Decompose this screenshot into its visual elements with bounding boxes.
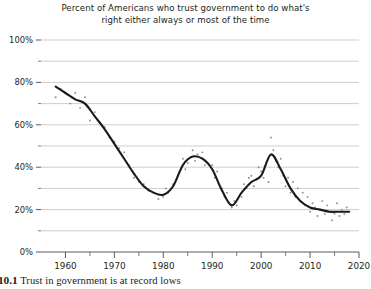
scatter-point [297,187,299,189]
scatter-point [84,96,86,98]
x-axis-tick-label: 1970 [103,261,126,271]
scatter-point [79,107,81,109]
chart-plot-area: 0%20%40%60%80%100% 196019701980199020002… [0,26,371,271]
x-axis-tick-label: 1990 [201,261,224,271]
scatter-point [321,200,323,202]
scatter-point [94,111,96,113]
scatter-point [123,151,125,153]
scatter-point [290,192,292,194]
scatter-point [202,151,204,153]
scatter-point [187,162,189,164]
scatter-point [316,215,318,217]
scatter-point [324,213,326,215]
scatter-point [268,181,270,183]
x-axis-labels-group: 1960197019801990200020102020 [54,261,370,271]
chart-title-line-1: Percent of Americans who trust governmen… [0,2,371,14]
scatter-points-group [55,88,348,221]
scatter-point [226,192,228,194]
scatter-point [292,181,294,183]
scatter-point [243,183,245,185]
y-axis-tick-label: 20% [14,205,33,215]
scatter-point [346,207,348,209]
x-axis-tick-label: 2010 [299,261,322,271]
x-axis-tick-label: 2020 [348,261,371,271]
scatter-point [157,198,159,200]
gridlines-group [41,40,359,252]
scatter-point [331,219,333,221]
y-axis-tick-label: 100% [9,35,33,45]
trend-line [56,87,350,212]
scatter-point [285,185,287,187]
scatter-point [326,204,328,206]
scatter-point [89,120,91,122]
scatter-point [334,213,336,215]
y-axis-labels-group: 0%20%40%60%80%100% [9,35,33,257]
figure-caption: 10.1 Trust in government is at record lo… [0,274,371,286]
scatter-point [248,177,250,179]
scatter-point [192,149,194,151]
scatter-point [338,215,340,217]
scatter-point [280,158,282,160]
scatter-point [302,192,304,194]
scatter-point [272,149,274,151]
x-axis-tick-label: 1980 [152,261,175,271]
x-axis-tick-label: 2000 [250,261,273,271]
scatter-point [197,154,199,156]
scatter-point [211,164,213,166]
scatter-point [343,213,345,215]
scatter-point [307,196,309,198]
scatter-point [241,196,243,198]
x-axis-group [65,252,359,258]
scatter-point [204,164,206,166]
y-axis-ticks-group [36,40,41,252]
scatter-point [216,170,218,172]
figure-caption-number: 10.1 [0,274,18,286]
scatter-point [133,177,135,179]
y-axis-tick-label: 80% [14,77,33,87]
scatter-point [253,185,255,187]
scatter-point [231,207,233,209]
scatter-point [270,137,272,139]
x-axis-tick-label: 1960 [54,261,77,271]
scatter-point [309,211,311,213]
trend-line-group [56,87,350,212]
scatter-point [258,166,260,168]
scatter-point [165,187,167,189]
scatter-point [336,202,338,204]
chart-title-line-2: right either always or most of the time [0,14,371,26]
figure-caption-text: Trust in government is at record lows [20,275,180,286]
y-axis-tick-label: 40% [14,162,33,172]
scatter-point [194,160,196,162]
scatter-point [184,168,186,170]
scatter-point [74,92,76,94]
y-axis-tick-label: 0% [20,247,33,257]
scatter-point [287,177,289,179]
scatter-point [263,177,265,179]
scatter-point [312,202,314,204]
scatter-point [182,158,184,160]
figure-container: Percent of Americans who trust governmen… [0,0,371,289]
scatter-point [69,103,71,105]
chart-title: Percent of Americans who trust governmen… [0,2,371,26]
scatter-point [341,209,343,211]
scatter-point [55,96,57,98]
scatter-point [236,204,238,206]
scatter-point [250,175,252,177]
y-axis-tick-label: 60% [14,120,33,130]
scatter-point [162,196,164,198]
